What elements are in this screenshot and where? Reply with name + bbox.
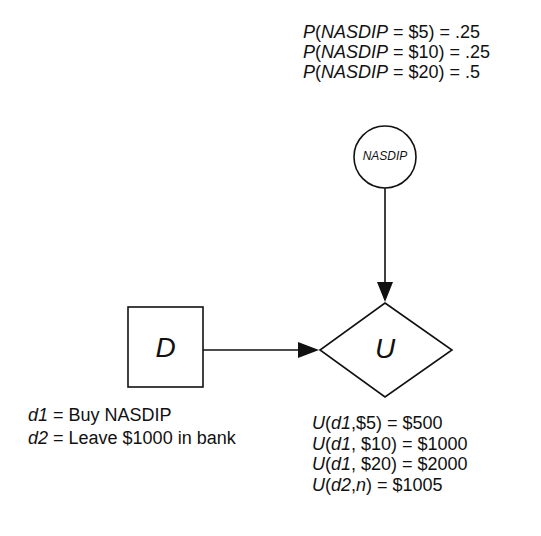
util-var: d1 bbox=[331, 454, 351, 474]
nasdip-node-label: NASDIP bbox=[354, 148, 416, 164]
prob-rest: = $20) = .5 bbox=[388, 62, 480, 82]
prob-var: NASDIP bbox=[321, 62, 388, 82]
arrowhead-right-icon bbox=[298, 342, 319, 358]
decision-node-label: D bbox=[128, 332, 203, 364]
util-fn: U bbox=[312, 475, 325, 495]
prob-fn: P bbox=[303, 42, 315, 62]
util-mid: , $10) = $1000 bbox=[351, 434, 468, 454]
util-rest: ) = $1005 bbox=[366, 475, 443, 495]
utility-line: U(d2,n) = $1005 bbox=[312, 475, 443, 495]
prob-fn: P bbox=[303, 62, 315, 82]
prob-rest: = $10) = .25 bbox=[388, 42, 490, 62]
util-mid: ,$5) = $500 bbox=[351, 413, 443, 433]
decision-desc: = Buy NASDIP bbox=[48, 405, 172, 425]
util-fn: U bbox=[312, 413, 325, 433]
probability-line: P(NASDIP = $10) = .25 bbox=[303, 42, 490, 62]
utility-node-label: U bbox=[355, 333, 415, 365]
util-fn: U bbox=[312, 434, 325, 454]
util-mid: , $20) = $2000 bbox=[351, 454, 468, 474]
utility-line: U(d1, $10) = $1000 bbox=[312, 434, 468, 454]
prob-fn: P bbox=[303, 22, 315, 42]
decision-var: d2 bbox=[28, 428, 48, 448]
util-var: d1 bbox=[331, 413, 351, 433]
prob-var: NASDIP bbox=[321, 22, 388, 42]
utility-line: U(d1,$5) = $500 bbox=[312, 413, 443, 433]
prob-rest: = $5) = .25 bbox=[388, 22, 480, 42]
util-var: d1 bbox=[331, 434, 351, 454]
arrowhead-down-icon bbox=[377, 282, 393, 302]
probability-line: P(NASDIP = $5) = .25 bbox=[303, 22, 480, 42]
prob-var: NASDIP bbox=[321, 42, 388, 62]
util-var: d2 bbox=[331, 475, 351, 495]
decision-line: d1 = Buy NASDIP bbox=[28, 405, 172, 425]
probability-line: P(NASDIP = $20) = .5 bbox=[303, 62, 480, 82]
util-fn: U bbox=[312, 454, 325, 474]
util-var2: n bbox=[356, 475, 366, 495]
decision-desc: = Leave $1000 in bank bbox=[48, 428, 236, 448]
utility-line: U(d1, $20) = $2000 bbox=[312, 454, 468, 474]
decision-line: d2 = Leave $1000 in bank bbox=[28, 428, 236, 448]
decision-var: d1 bbox=[28, 405, 48, 425]
